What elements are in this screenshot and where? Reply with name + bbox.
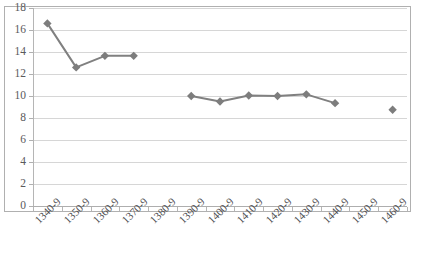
x-tick-mark-3 bbox=[119, 207, 120, 211]
y-tick-mark-18 bbox=[29, 8, 33, 9]
plot-area bbox=[33, 8, 407, 206]
y-tick-label-0: 0 bbox=[0, 200, 26, 212]
series-line-group bbox=[33, 8, 407, 206]
x-tick-mark-1 bbox=[62, 207, 63, 211]
series-segment-0 bbox=[47, 23, 133, 67]
x-tick-mark-4 bbox=[148, 207, 149, 211]
data-point-1410-9 bbox=[245, 91, 253, 99]
data-point-1400-9 bbox=[216, 97, 224, 105]
x-axis-tick-labels: 1340-91350-91360-91370-91380-91390-91400… bbox=[0, 212, 423, 256]
data-point-1370-9 bbox=[129, 52, 137, 60]
y-tick-mark-4 bbox=[29, 162, 33, 163]
y-tick-label-12: 12 bbox=[0, 68, 26, 80]
y-tick-mark-2 bbox=[29, 184, 33, 185]
data-point-1420-9 bbox=[273, 92, 281, 100]
data-point-1360-9 bbox=[101, 52, 109, 60]
y-tick-mark-10 bbox=[29, 96, 33, 97]
y-axis-line bbox=[33, 8, 34, 207]
x-tick-mark-13 bbox=[407, 207, 408, 211]
x-tick-mark-12 bbox=[378, 207, 379, 211]
x-tick-mark-7 bbox=[234, 207, 235, 211]
x-tick-mark-9 bbox=[292, 207, 293, 211]
x-tick-mark-10 bbox=[321, 207, 322, 211]
y-tick-mark-6 bbox=[29, 140, 33, 141]
x-tick-mark-0 bbox=[33, 207, 34, 211]
data-point-1440-9 bbox=[331, 99, 339, 107]
data-point-1460-9 bbox=[388, 106, 396, 114]
y-tick-label-10: 10 bbox=[0, 90, 26, 102]
y-tick-mark-16 bbox=[29, 30, 33, 31]
x-tick-mark-5 bbox=[177, 207, 178, 211]
data-point-1390-9 bbox=[187, 92, 195, 100]
y-tick-label-2: 2 bbox=[0, 178, 26, 190]
y-tick-label-8: 8 bbox=[0, 112, 26, 124]
x-tick-mark-6 bbox=[206, 207, 207, 211]
x-tick-mark-11 bbox=[349, 207, 350, 211]
x-tick-mark-8 bbox=[263, 207, 264, 211]
y-tick-label-16: 16 bbox=[0, 24, 26, 36]
y-tick-label-4: 4 bbox=[0, 156, 26, 168]
y-tick-mark-14 bbox=[29, 52, 33, 53]
series-segment-1 bbox=[191, 94, 335, 103]
y-tick-label-18: 18 bbox=[0, 2, 26, 14]
y-tick-label-6: 6 bbox=[0, 134, 26, 146]
y-tick-mark-8 bbox=[29, 118, 33, 119]
line-chart: 024681012141618 1340-91350-91360-91370-9… bbox=[0, 0, 423, 256]
data-point-1430-9 bbox=[302, 90, 310, 98]
x-tick-mark-2 bbox=[91, 207, 92, 211]
y-tick-label-14: 14 bbox=[0, 46, 26, 58]
y-tick-mark-12 bbox=[29, 74, 33, 75]
